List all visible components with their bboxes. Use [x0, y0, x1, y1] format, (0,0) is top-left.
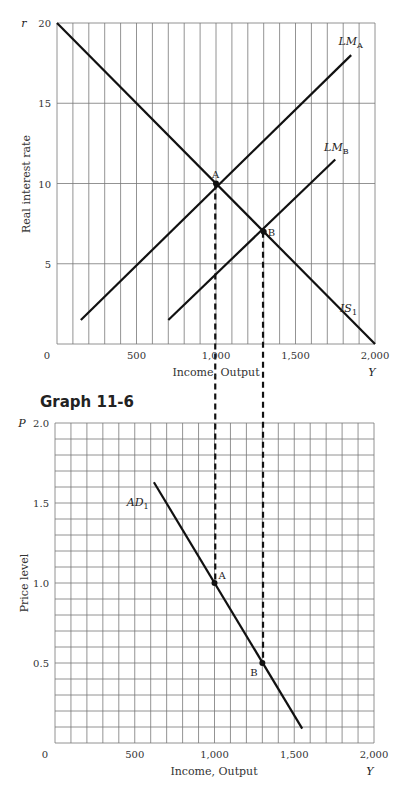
curve-label-ad1: AD1 — [126, 496, 149, 511]
point-label-b: B — [250, 667, 257, 678]
x-tick-label: 1,000 — [202, 350, 231, 361]
top-y-axis-label: Real interest rate — [20, 135, 33, 233]
top-x-symbol: Y — [368, 366, 377, 379]
point-label-a: A — [218, 570, 227, 581]
y-tick-label: 20 — [38, 18, 51, 29]
ad-ticks: 05001,0001,5002,0000.51.01.52.0 — [33, 418, 388, 760]
y-tick-label: 1.0 — [33, 578, 49, 589]
x-tick-label: 2,000 — [360, 749, 389, 760]
top-x-axis-label: Income, Output — [172, 366, 260, 379]
bottom-y-axis-label: Price level — [18, 553, 31, 612]
point-b — [261, 229, 267, 235]
top-y-symbol: r — [21, 17, 27, 30]
graph-title: Graph 11-6 — [40, 393, 134, 411]
x-tick-label: 2,000 — [361, 350, 390, 361]
curve-label-lmb: LMB — [323, 141, 349, 156]
x-tick-label: 1,500 — [280, 749, 309, 760]
point-label-b: B — [268, 227, 275, 238]
x-tick-label: 1,000 — [200, 749, 229, 760]
x-tick-label: 1,500 — [281, 350, 310, 361]
x-tick-label: 0 — [44, 350, 50, 361]
bottom-x-symbol: Y — [366, 765, 375, 778]
x-tick-label: 500 — [127, 350, 146, 361]
y-tick-label: 5 — [45, 259, 51, 270]
bottom-y-symbol: P — [17, 417, 26, 430]
graph-11-6: IS1LMALMBAB AD1AB 05001,0001,5002,000510… — [0, 0, 406, 785]
curve-label-is1: IS1 — [339, 302, 357, 317]
y-tick-label: 10 — [38, 179, 51, 190]
y-tick-label: 1.5 — [33, 498, 49, 509]
x-tick-label: 500 — [125, 749, 144, 760]
x-tick-label: 0 — [42, 749, 48, 760]
y-tick-label: 2.0 — [33, 418, 49, 429]
y-tick-label: 15 — [38, 98, 51, 109]
point-b — [259, 660, 265, 666]
bottom-x-axis-label: Income, Output — [170, 765, 258, 778]
point-a — [213, 181, 219, 187]
point-label-a: A — [211, 169, 220, 180]
point-a — [212, 580, 218, 586]
y-tick-label: 0.5 — [33, 658, 49, 669]
